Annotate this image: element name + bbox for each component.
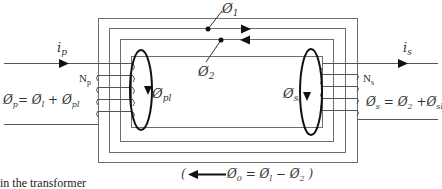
svg-text:Ø0 = Øl − Ø2 ): Ø0 = Øl − Ø2 ) — [226, 167, 313, 183]
secondary-coil — [321, 68, 359, 116]
is-label: is — [403, 40, 412, 57]
phi1-pointer-line — [208, 11, 222, 29]
ns-label: Ns — [363, 72, 374, 87]
phi-sl-label: Øsl — [282, 86, 301, 103]
phi2-label: Ø2 — [197, 64, 215, 81]
phi1-dot-icon — [206, 27, 211, 32]
primary-flux-equation: Øp= Øl + Øpl — [2, 93, 80, 109]
transformer-flux-diagram: Ø1 Ø2 ip is Np Ns Øpl Øsl Øp= Øl + Øpl Ø… — [0, 0, 442, 189]
svg-text:(: ( — [181, 167, 186, 181]
np-label: Np — [79, 72, 91, 87]
secondary-wires — [322, 64, 438, 120]
phi2-arrow-icon — [240, 36, 250, 45]
phi2-dot-icon — [219, 38, 224, 43]
phi2-pointer-line — [206, 40, 221, 62]
phi-pl-label: Øpl — [151, 86, 171, 103]
phi-pl-arrow-icon — [144, 86, 152, 95]
phi1-arrow-icon — [241, 25, 251, 34]
is-arrow-icon — [398, 59, 408, 68]
ip-label: ip — [57, 40, 67, 57]
phi-sl-arrow-icon — [303, 92, 311, 101]
secondary-flux-equation: Øs = Ø2 +Øsl — [365, 95, 442, 111]
net-flux-arrow-icon — [188, 170, 198, 179]
net-flux-equation: ( Ø0 = Øl − Ø2 ) — [181, 167, 313, 183]
core-frame — [99, 19, 358, 163]
core-outer-rect — [99, 19, 358, 163]
ip-arrow-icon — [59, 59, 69, 68]
phi1-label: Ø1 — [221, 1, 238, 18]
primary-coil — [97, 64, 135, 118]
figure-caption: in the transformer — [0, 176, 86, 189]
